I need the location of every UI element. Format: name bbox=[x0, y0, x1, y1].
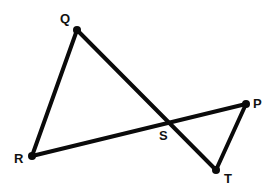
point-q bbox=[73, 26, 81, 34]
segment-qr bbox=[32, 30, 77, 156]
label-s: S bbox=[159, 128, 168, 143]
segment-pt bbox=[216, 104, 246, 170]
label-p: P bbox=[253, 96, 262, 111]
point-r bbox=[28, 152, 36, 160]
label-q: Q bbox=[60, 11, 70, 26]
geometry-diagram: Q R P T S bbox=[0, 0, 277, 191]
point-t bbox=[212, 166, 220, 174]
segment-qt bbox=[77, 30, 216, 170]
label-r: R bbox=[14, 151, 24, 166]
segment-rp bbox=[32, 104, 246, 156]
point-p bbox=[242, 100, 250, 108]
label-t: T bbox=[224, 171, 232, 186]
